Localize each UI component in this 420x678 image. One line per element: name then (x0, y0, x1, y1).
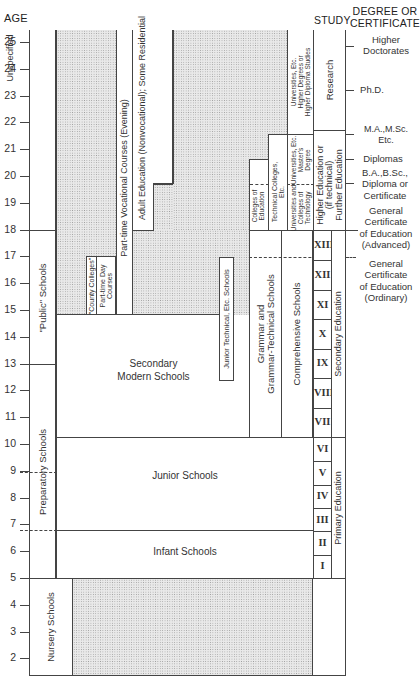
age-tick-label: 17 (0, 249, 16, 261)
age-7-boundary-left (20, 472, 57, 473)
ba-bsc-label: B.A.,B.Sc.,Diploma orCertificate (354, 167, 416, 201)
adult-education-bottom (133, 230, 154, 231)
study-year-cell: V (314, 461, 331, 484)
age-tick-mark (20, 42, 29, 43)
age-tick-mark (20, 203, 29, 204)
diplomas-label: Diplomas (356, 153, 410, 164)
research-box: Research (313, 30, 346, 131)
age-tick-mark (20, 605, 29, 606)
age-tick-mark (20, 149, 29, 150)
ba-bsc-tick (346, 183, 354, 184)
study-year-numeral: VII (314, 416, 331, 427)
age-tick-mark (20, 417, 29, 418)
primary-education-box: Primary Education (331, 437, 346, 579)
study-year-numeral: II (314, 537, 331, 548)
age-tick-label: 5 (0, 571, 16, 583)
nursery-schools-box: Nursery Schools (29, 578, 73, 676)
study-year-numeral: XIII (314, 239, 331, 250)
universities-higher-degrees-box: Universities, Etc.Higher Degrees orHighe… (287, 30, 314, 135)
age-tick-mark (20, 632, 29, 633)
age-tick-label: 2 (0, 651, 16, 663)
public-schools-box: "Public" Schools (29, 230, 56, 365)
age-tick-label: 19 (0, 196, 16, 208)
gce-advanced-label: GeneralCertificateof Education(Advanced) (354, 205, 418, 251)
technical-colleges-box: Technical Colleges,Etc. (268, 134, 288, 231)
age-axis-title: AGE (4, 12, 28, 24)
age-tick-mark (20, 69, 29, 70)
universities-masters-box: Universities, Etc.Master'sDegree (287, 134, 314, 185)
degree-title-line1: DEGREE OR (350, 6, 420, 18)
age-tick-mark (20, 122, 29, 123)
primary-years-column: VIVIVIIIIII (313, 437, 332, 579)
primary-education-label: Primary Education (334, 471, 343, 545)
universities-technology-label: Universities andColleges ofTechnology (290, 184, 310, 230)
age-tick-label: 14 (0, 330, 16, 342)
universities-masters-label: Universities, Etc.Master'sDegree (290, 135, 310, 183)
age-tick-mark (20, 283, 29, 284)
no-provision-area-nursery (73, 578, 313, 676)
age-7-boundary-prep (20, 530, 57, 531)
age-tick-label: 12 (0, 383, 16, 395)
study-column-title: STUDY (314, 14, 351, 26)
secondary-education-box: Secondary Education (331, 230, 346, 438)
study-year-numeral: IX (314, 357, 331, 368)
age-tick-mark (20, 551, 29, 552)
diplomas-tick (346, 159, 354, 160)
study-year-cell: XI (314, 290, 331, 319)
study-year-numeral: IV (314, 490, 331, 501)
colleges-of-education-top (249, 159, 269, 160)
adult-education-step (153, 184, 173, 185)
technical-colleges-top (268, 134, 314, 135)
age-tick-label: 24 (0, 62, 16, 74)
age-tick-label: 25 (0, 35, 16, 47)
study-year-cell: II (314, 531, 331, 554)
universities-higher-degrees-label: Universities, Etc.Higher Degrees orHighe… (290, 48, 310, 116)
study-year-cell: III (314, 508, 331, 531)
age-tick-label: 22 (0, 115, 16, 127)
higher-doctorates-label: HigherDoctorates (356, 34, 416, 57)
public-schools-label: "Public" Schools (38, 263, 48, 332)
age-tick-label: 7 (0, 517, 16, 529)
junior-schools-caption: Junior Schools (56, 470, 314, 481)
adult-education-box: Adult Education (Nonvocational); Some Re… (133, 30, 154, 231)
study-year-numeral: III (314, 514, 331, 525)
no-provision-area-mid-right2 (173, 159, 249, 231)
secondary-education-label: Secondary Education (334, 291, 343, 377)
nursery-study-column (312, 578, 346, 676)
age-tick-label: 13 (0, 357, 16, 369)
colleges-of-education-box: Colleges ofEducation (249, 159, 269, 231)
junior-technical-box-overlay: Junior Technical, Etc. Schools (219, 257, 234, 381)
study-year-cell: VII (314, 408, 331, 437)
study-year-numeral: I (314, 560, 331, 571)
age-18-boundary (20, 230, 57, 231)
universities-technology-box: Universities andColleges ofTechnology (287, 184, 314, 231)
ma-msc-label: M.A.,M.Sc.Etc. (356, 124, 416, 146)
age-tick-label: 21 (0, 142, 16, 154)
study-year-numeral: VIII (314, 387, 331, 398)
study-year-numeral: XII (314, 269, 331, 280)
study-year-numeral: X (314, 328, 331, 339)
infant-schools-caption: Infant Schools (56, 546, 314, 557)
age-5-boundary (20, 578, 346, 579)
age-tick-label: 11 (0, 410, 16, 422)
comprehensive-schools-box: Comprehensive Schools (281, 230, 313, 438)
age-7-boundary (56, 530, 314, 531)
no-provision-area-upper-right (173, 30, 287, 134)
age-tick-mark (20, 390, 29, 391)
comprehensive-schools-label: Comprehensive Schools (292, 283, 302, 386)
adult-education-upper (153, 30, 173, 184)
age-tick-label: 18 (0, 223, 16, 235)
secondary-years-column: XIIIXIIXIXIXVIIIVII (313, 230, 332, 438)
age-tick-mark (20, 176, 29, 177)
study-year-cell: IX (314, 349, 331, 378)
part-time-day-label: Part-time DayCourses (99, 264, 114, 307)
grammar-schools-box: Grammar andGrammar-Technical Schools (249, 230, 282, 438)
age-tick-mark (20, 337, 29, 338)
degree-title-line2: CERTIFICATE (350, 18, 420, 30)
higher-doctorates-tick (346, 46, 354, 47)
no-provision-area-adult-step (154, 184, 173, 231)
adult-education-left-edge (153, 184, 154, 231)
higher-education-box: Higher Education or(if technical)Further… (313, 130, 346, 231)
age-tick-label: 8 (0, 491, 16, 503)
stipple-left-edge (56, 30, 57, 315)
